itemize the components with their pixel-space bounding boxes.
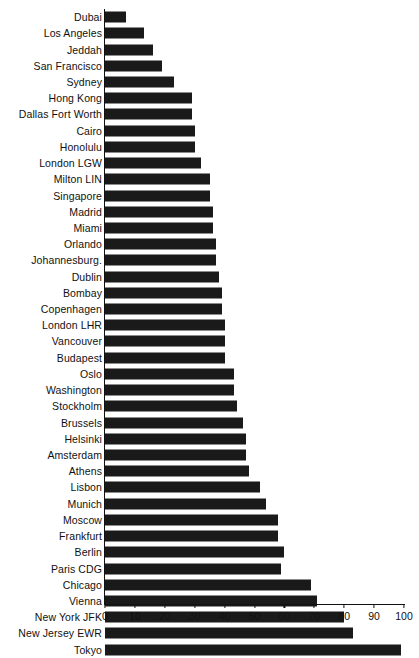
bar-row: Miami [0,220,419,236]
bar-row: Sydney [0,74,419,90]
bar-row: Budapest [0,350,419,366]
bar-row: Honolulu [0,139,419,155]
bar-track [105,255,404,266]
bar-row: Copenhagen [0,301,419,317]
bar [105,352,225,363]
bar [105,190,210,201]
x-tick-label: 60 [279,605,291,623]
bar [105,450,246,461]
bar-track [105,174,404,185]
bar-category-label: Helsinki [64,433,102,444]
bar-category-label: Miami [74,222,103,233]
bar-track [105,450,404,461]
bar [105,336,225,347]
bar [105,433,246,444]
bar-track [105,433,404,444]
bar-row: Paris CDG [0,560,419,576]
bar [105,547,284,558]
bar-track [105,109,404,120]
bar [105,385,234,396]
bar-row: Singapore [0,187,419,203]
bar [105,12,126,23]
bar-category-label: Munich [68,498,102,509]
bar [105,482,260,493]
bar-row: Stockholm [0,398,419,414]
bar-category-label: Jeddah [67,44,102,55]
bar-track [105,368,404,379]
bar [105,109,192,120]
bar-category-label: Honolulu [60,141,102,152]
bar-track [105,287,404,298]
bar [105,222,213,233]
bar-track [105,76,404,87]
bar [105,628,353,639]
bar-track [105,60,404,71]
bar-category-label: Berlin [75,547,102,558]
bar-row: Vancouver [0,333,419,349]
bar-category-label: Cairo [76,125,102,136]
x-tick-label: 30 [189,605,201,623]
bar-category-label: Paris CDG [51,563,102,574]
bar-track [105,28,404,39]
bar-category-label: Brussels [61,417,102,428]
x-tick-label: 90 [368,605,380,623]
bar-row: London LGW [0,155,419,171]
bar-category-label: Hong Kong [49,93,102,104]
bar-track [105,12,404,23]
bar [105,563,281,574]
bar-row: Amsterdam [0,447,419,463]
bar-category-label: Johannesburg. [31,255,102,266]
bar-category-label: Singapore [53,190,102,201]
bar-row: Berlin [0,544,419,560]
bar-row: San Francisco [0,58,419,74]
bar-row: Chicago [0,577,419,593]
bar-row: Cairo [0,123,419,139]
bar-track [105,466,404,477]
bar-category-label: San Francisco [34,60,102,71]
bar-track [105,125,404,136]
bar-category-label: Los Angeles [44,28,102,39]
x-axis-ticks: 0102030405060708090100 [0,605,419,627]
bar-row: Washington [0,382,419,398]
bar [105,498,266,509]
bar-row: Frankfurt [0,528,419,544]
bar-track [105,644,404,655]
bar-track [105,190,404,201]
bar-row: Dubai [0,9,419,25]
x-tick-label: 80 [338,605,350,623]
bar [105,466,249,477]
x-tick-label: 50 [249,605,261,623]
bar-row: Bombay [0,285,419,301]
bar-row: Johannesburg. [0,252,419,268]
bar-category-label: Dallas Fort Worth [19,109,102,120]
bar-track [105,158,404,169]
bar-category-label: London LGW [39,158,102,169]
bar [105,271,219,282]
bar-row: Helsinki [0,431,419,447]
bar [105,93,192,104]
bar [105,255,216,266]
bar-category-label: Orlando [64,239,102,250]
bar-row: Oslo [0,366,419,382]
bar [105,239,216,250]
bar-row: Dublin [0,269,419,285]
bar [105,158,201,169]
bar [105,531,278,542]
bar-track [105,498,404,509]
bar-track [105,93,404,104]
bar-category-label: Madrid [69,206,102,217]
bar-category-label: Oslo [80,368,102,379]
bar-track [105,239,404,250]
bar-track [105,304,404,315]
bar [105,644,401,655]
bar-track [105,222,404,233]
bar-row: London LHR [0,317,419,333]
x-tick-label: 40 [219,605,231,623]
bar [105,28,144,39]
bar-track [105,320,404,331]
x-tick-label: 20 [159,605,171,623]
bar-track [105,206,404,217]
bar-row: Madrid [0,204,419,220]
bar [105,60,162,71]
